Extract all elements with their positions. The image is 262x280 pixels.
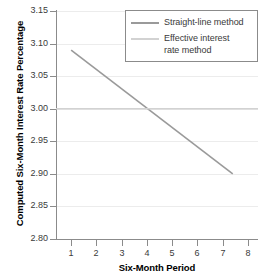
x-axis-tick-label: 1 (63, 248, 79, 258)
x-axis-tick-label: 3 (114, 248, 130, 258)
x-axis-tick-label: 4 (139, 248, 155, 258)
x-axis-tick-label: 6 (189, 248, 205, 258)
series-line-0 (71, 50, 233, 174)
y-axis-tick-label: 3.15 (30, 5, 48, 15)
x-axis-tick-label: 2 (88, 248, 104, 258)
chart-legend: Straight-line method Effective interest … (125, 10, 258, 62)
legend-label-straight-line: Straight-line method (164, 17, 244, 29)
x-axis-tick (223, 240, 224, 246)
y-axis-tick-label: 3.10 (30, 38, 48, 48)
x-axis-tick (96, 240, 97, 246)
gridline (57, 174, 258, 175)
x-axis-tick (197, 240, 198, 246)
y-axis-tick-label: 2.80 (30, 233, 48, 243)
legend-label-effective-rate: Effective interest rate method (164, 33, 229, 56)
x-axis-tick (122, 240, 123, 246)
x-axis-line (56, 239, 258, 240)
y-axis-title: Computed Six-Month Interest Rate Percent… (14, 9, 25, 239)
y-axis-tick-label: 3.00 (30, 103, 48, 113)
gridline (57, 141, 258, 142)
x-axis-tick (147, 240, 148, 246)
x-axis-tick-label: 7 (215, 248, 231, 258)
y-axis-tick-label: 2.95 (30, 135, 48, 145)
legend-entry-effective-rate: Effective interest rate method (131, 33, 229, 56)
gridline (57, 76, 258, 77)
gridline (57, 206, 258, 207)
y-axis-tick-label: 2.90 (30, 168, 48, 178)
legend-swatch-effective-rate (131, 38, 159, 40)
chart-container: Computed Six-Month Interest Rate Percent… (0, 0, 262, 280)
x-axis-tick (71, 240, 72, 246)
legend-swatch-straight-line (131, 22, 159, 24)
y-axis-line (56, 10, 57, 240)
x-axis-tick (172, 240, 173, 246)
x-axis-tick-label: 5 (164, 248, 180, 258)
x-axis-tick-label: 8 (240, 248, 256, 258)
x-axis-title: Six-Month Period (56, 262, 258, 273)
legend-entry-straight-line: Straight-line method (131, 17, 244, 29)
y-axis-tick-label: 2.85 (30, 200, 48, 210)
gridline (57, 109, 258, 110)
x-axis-tick (248, 240, 249, 246)
y-axis-tick-label: 3.05 (30, 70, 48, 80)
